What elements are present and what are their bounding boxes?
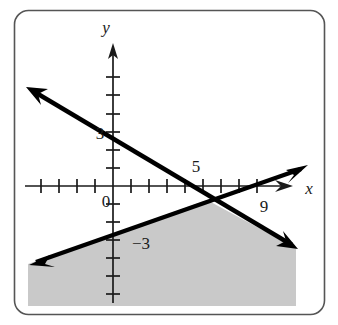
x-axis-label: x	[304, 179, 313, 198]
label-x-intercept-5: 5	[192, 157, 201, 176]
label-y-intercept-3: 3	[96, 124, 105, 143]
origin-label: 0	[102, 192, 111, 211]
y-axis-label: y	[100, 18, 110, 37]
coordinate-plane-svg: y x 0 3 5 9 −3	[0, 0, 338, 325]
graph-figure: y x 0 3 5 9 −3	[0, 0, 338, 325]
label-y-intercept-negative-3: −3	[132, 234, 150, 253]
label-x-intercept-9: 9	[260, 197, 269, 216]
